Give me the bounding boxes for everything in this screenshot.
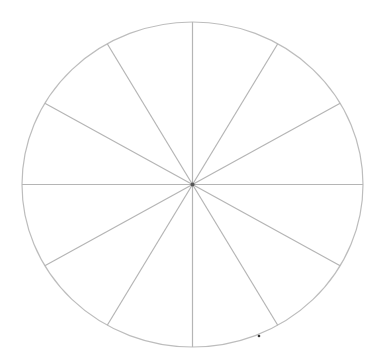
stray-dot (258, 335, 261, 338)
spoke-60deg (193, 44, 278, 185)
spoke-210deg (45, 185, 193, 266)
spoke-240deg (107, 185, 192, 326)
spoke-30deg (193, 103, 341, 184)
spoke-300deg (193, 185, 278, 326)
spoke-150deg (45, 103, 193, 184)
spoke-120deg (107, 44, 192, 185)
center-dot (191, 183, 195, 187)
segmented-circle-diagram (0, 0, 381, 364)
spoke-330deg (193, 185, 341, 266)
wheel-svg (0, 0, 381, 364)
